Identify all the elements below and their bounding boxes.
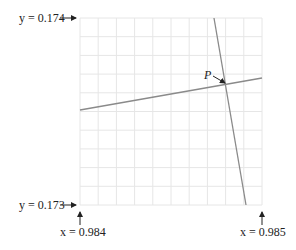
- x-left-label: x = 0.984: [60, 225, 106, 239]
- diagram-canvas: y = 0.174 y = 0.173 x = 0.984 x = 0.985 …: [0, 0, 296, 250]
- grid: [80, 18, 262, 205]
- y-top-label: y = 0.174: [19, 11, 65, 25]
- x-right-label: x = 0.985: [240, 225, 286, 239]
- point-p-arrow-icon: [213, 76, 225, 83]
- y-bottom-label: y = 0.173: [19, 198, 65, 212]
- point-p-label: P: [203, 68, 212, 82]
